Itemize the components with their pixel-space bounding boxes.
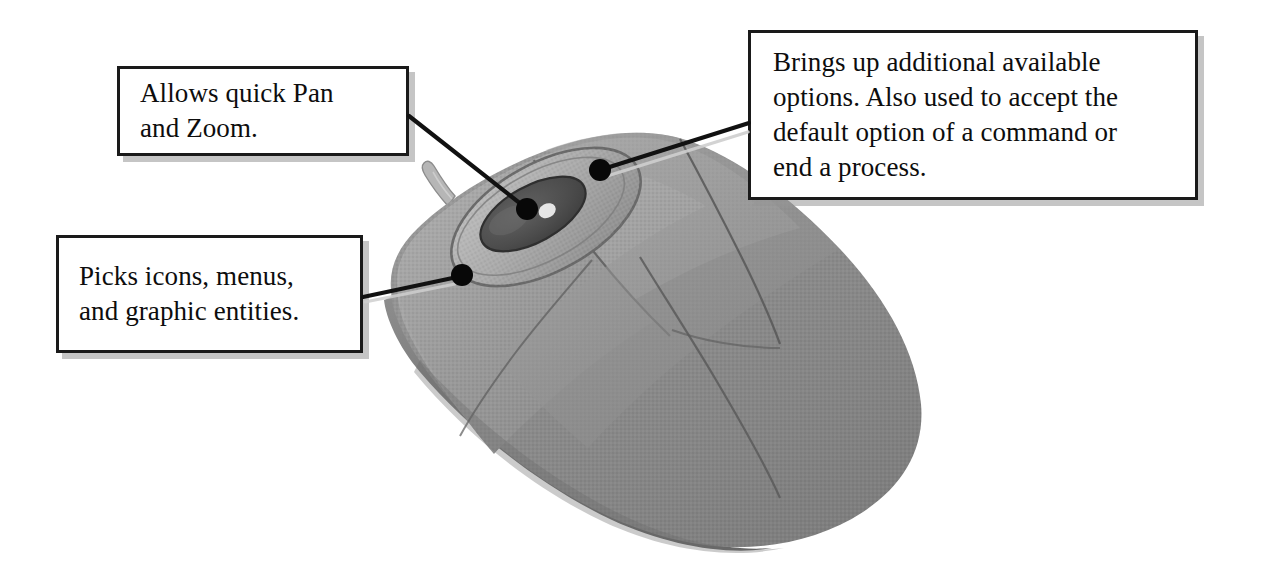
mouse-diagram-figure: Allows quick Pan and Zoom. Picks icons, … bbox=[0, 0, 1273, 572]
callout-text-options: Brings up additional available options. … bbox=[751, 41, 1132, 189]
mouse-cable bbox=[422, 161, 455, 206]
callout-box-picks: Picks icons, menus, and graphic entities… bbox=[56, 235, 363, 353]
callout-box-options: Brings up additional available options. … bbox=[748, 30, 1198, 200]
callout-box-pan-zoom: Allows quick Pan and Zoom. bbox=[117, 66, 409, 156]
callout-text-picks: Picks icons, menus, and graphic entities… bbox=[59, 255, 313, 333]
callout-text-pan-zoom: Allows quick Pan and Zoom. bbox=[120, 72, 348, 150]
